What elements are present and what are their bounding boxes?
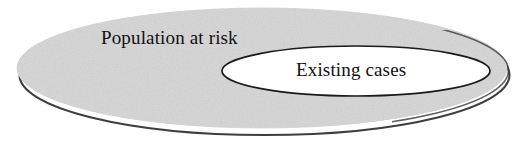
inner-set-label: Existing cases xyxy=(296,60,406,79)
outer-set-label: Population at risk xyxy=(101,28,238,47)
euler-diagram-figure: Population at risk Existing cases xyxy=(0,0,525,152)
euler-diagram-canvas xyxy=(0,0,525,152)
